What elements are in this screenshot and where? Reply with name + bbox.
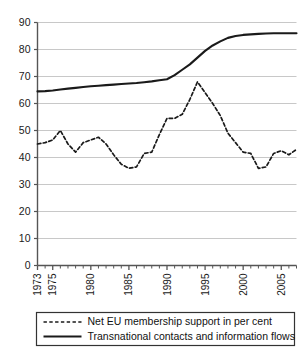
y-tick-label: 90 <box>19 16 31 28</box>
y-tick-label: 40 <box>19 151 31 163</box>
y-tick-label: 70 <box>19 70 31 82</box>
legend: Net EU membership support in per centTra… <box>37 313 295 346</box>
series-lines <box>38 33 297 168</box>
y-tick-label: 10 <box>19 232 31 244</box>
y-tick-labels: 0102030405060708090 <box>19 16 31 271</box>
x-tick-label: 1995 <box>200 273 211 296</box>
series-line <box>38 82 297 168</box>
legend-label: Transnational contacts and information f… <box>88 330 295 342</box>
y-tick-label: 60 <box>19 97 31 109</box>
x-tick-label: 1990 <box>162 273 173 296</box>
grid-lines <box>38 23 297 239</box>
y-tick-label: 0 <box>25 259 31 271</box>
x-tick-label: 1973 <box>32 273 43 296</box>
x-axis <box>38 266 297 271</box>
x-tick-label: 1975 <box>47 273 58 296</box>
legend-label: Net EU membership support in per cent <box>88 315 272 327</box>
x-tick-label: 2005 <box>276 273 287 296</box>
y-tick-label: 50 <box>19 124 31 136</box>
chart-figure: 0102030405060708090 19731975198019851990… <box>0 0 306 357</box>
y-tick-label: 20 <box>19 205 31 217</box>
x-tick-label: 2000 <box>238 273 249 296</box>
y-tick-label: 80 <box>19 43 31 55</box>
x-tick-label: 1985 <box>123 273 134 296</box>
y-tick-label: 30 <box>19 178 31 190</box>
series-line <box>38 33 297 91</box>
x-tick-labels: 19731975198019851990199520002005 <box>32 273 287 296</box>
x-tick-label: 1980 <box>85 273 96 296</box>
line-chart: 0102030405060708090 19731975198019851990… <box>0 0 306 357</box>
